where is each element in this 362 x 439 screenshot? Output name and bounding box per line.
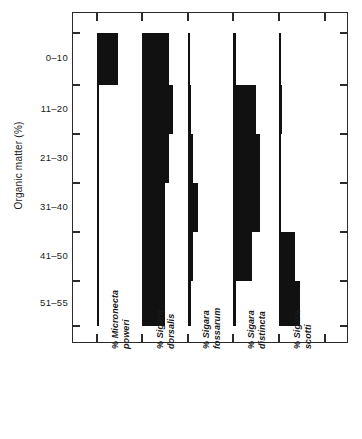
bar-segment: [142, 232, 165, 281]
x-axis-tick-top-5: [324, 13, 325, 21]
bar-segment: [188, 85, 191, 134]
bar-segment: [142, 134, 169, 183]
bar-segment: [233, 33, 236, 85]
x-axis-tick-bottom-0: [96, 334, 97, 342]
x-axis-tick-top-1: [141, 13, 142, 21]
y-axis-tick-right-6: [340, 325, 347, 326]
y-tick-label-4: 41–50: [12, 250, 68, 261]
x-axis-label-species: distincta: [257, 310, 268, 349]
x-axis-tick-bottom-4: [278, 334, 279, 342]
chart-root: Organic matter (%) 0–1011–2021–3031–4041…: [0, 0, 362, 439]
y-axis-tick-right-5: [340, 280, 347, 281]
y-axis-tick-labels: 0–1011–2021–3031–4041–5051–55: [8, 0, 68, 439]
x-axis-tick-top-4: [278, 13, 279, 21]
x-axis-tick-bottom-5: [324, 334, 325, 342]
bar-segment: [97, 85, 99, 134]
bar-segment: [233, 183, 260, 232]
bar-segment: [97, 33, 118, 85]
bar-segment: [233, 232, 252, 281]
bar-segment: [97, 183, 99, 232]
bar-segment: [279, 134, 281, 183]
bar-segment: [279, 85, 282, 134]
x-axis-label-species: dorsalis: [166, 310, 177, 349]
y-axis-tick-6: [73, 325, 80, 326]
y-axis-tick-right-2: [340, 133, 347, 134]
y-axis-tick-1: [73, 84, 80, 85]
y-axis-tick-right-3: [340, 182, 347, 183]
bar-segment: [233, 85, 256, 134]
x-axis-label-3: % Sigaradistincta: [246, 310, 267, 349]
bar-segment: [188, 134, 193, 183]
x-axis-label-genus: % Micronecta: [110, 290, 121, 349]
y-tick-label-5: 51–55: [12, 297, 68, 308]
y-tick-label-3: 31–40: [12, 201, 68, 212]
bar-segment: [142, 33, 169, 85]
bar-segment: [279, 232, 295, 281]
bar-segment: [188, 183, 198, 232]
x-axis-label-genus: % Sigara: [155, 310, 166, 349]
bar-segment: [279, 33, 281, 85]
x-axis-label-species: poweri: [121, 290, 132, 349]
bar-segment: [233, 134, 260, 183]
x-axis-label-4: % Sigarascotti: [292, 310, 313, 349]
y-axis-tick-0: [73, 32, 80, 33]
bar-segment: [188, 33, 190, 85]
bar-segment: [142, 183, 165, 232]
bar-segment: [97, 281, 99, 326]
x-axis-label-1: % Sigaradorsalis: [155, 310, 176, 349]
y-axis-tick-3: [73, 182, 80, 183]
bar-segment: [188, 232, 193, 281]
bar-segment: [97, 232, 99, 281]
y-axis-tick-right-0: [340, 32, 347, 33]
x-axis-label-species: fossarum: [212, 308, 223, 349]
x-axis-label-genus: % Sigara: [246, 310, 257, 349]
bar-segment: [188, 281, 191, 326]
x-axis-tick-bottom-3: [232, 334, 233, 342]
x-axis-label-0: % Micronectapoweri: [110, 290, 131, 349]
y-axis-tick-4: [73, 231, 80, 232]
x-axis-label-genus: % Sigara: [292, 310, 303, 349]
x-axis-label-genus: % Sigara: [201, 308, 212, 349]
bar-segment: [279, 183, 281, 232]
y-axis-tick-5: [73, 280, 80, 281]
y-tick-label-1: 11–20: [12, 103, 68, 114]
x-axis-label-2: % Sigarafossarum: [201, 308, 222, 349]
x-axis-tick-top-2: [187, 13, 188, 21]
bar-segment: [233, 281, 236, 326]
y-axis-tick-right-4: [340, 231, 347, 232]
x-axis-tick-top-3: [232, 13, 233, 21]
bar-segment: [142, 85, 173, 134]
y-axis-tick-right-1: [340, 84, 347, 85]
bar-segment: [97, 134, 99, 183]
x-axis-tick-bottom-1: [141, 334, 142, 342]
x-axis-tick-top-0: [96, 13, 97, 21]
y-tick-label-2: 21–30: [12, 152, 68, 163]
y-tick-label-0: 0–10: [12, 52, 68, 63]
x-axis-tick-bottom-2: [187, 334, 188, 342]
y-axis-tick-2: [73, 133, 80, 134]
x-axis-label-species: scotti: [303, 310, 314, 349]
